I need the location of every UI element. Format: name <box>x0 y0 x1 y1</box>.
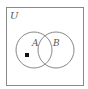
universe-label: U <box>10 10 19 21</box>
set-a-label: A <box>31 38 39 48</box>
set-b-label: B <box>52 38 60 48</box>
venn-diagram: U A B <box>0 0 88 89</box>
element-marker <box>25 53 29 57</box>
